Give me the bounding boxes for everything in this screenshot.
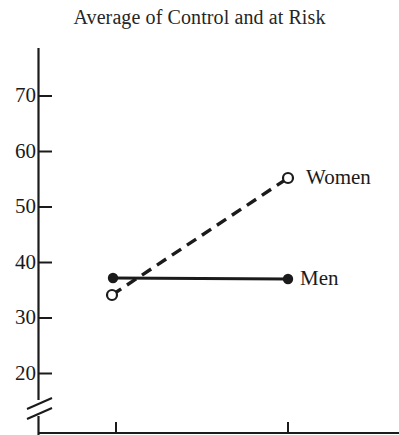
y-tick-label-50: 50	[0, 196, 36, 217]
y-tick-label-20: 20	[0, 363, 36, 384]
y-tick-label-60: 60	[0, 141, 36, 162]
data-point-women-at-risk	[283, 173, 293, 183]
series-label-men: Men	[300, 268, 339, 289]
chart-figure: Average of Control and at Risk 7	[0, 0, 399, 435]
plot-area	[0, 0, 399, 435]
series-line-men	[113, 278, 288, 279]
y-tick-label-40: 40	[0, 252, 36, 273]
y-tick-label-70: 70	[0, 85, 36, 106]
y-tick-label-30: 30	[0, 307, 36, 328]
data-point-men-at-risk	[283, 274, 293, 284]
data-point-men-control	[108, 273, 118, 283]
series-label-women: Women	[306, 167, 371, 188]
data-point-women-control	[107, 290, 117, 300]
